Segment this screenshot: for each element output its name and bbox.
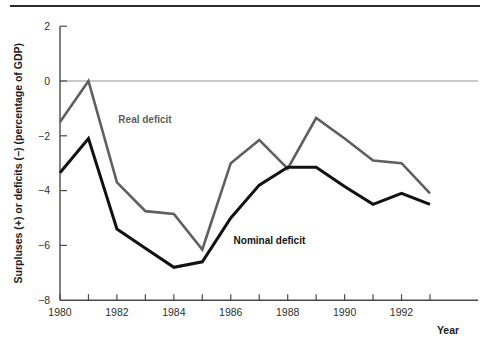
x-tick-label: 1992 xyxy=(390,306,414,318)
x-tick-label: 1986 xyxy=(219,306,243,318)
x-tick-label: 1988 xyxy=(276,306,300,318)
x-tick-label: 1980 xyxy=(48,306,72,318)
x-tick-group: 1980198219841986198819901992 xyxy=(48,294,430,318)
series-annotation-group: Real deficitNominal deficit xyxy=(118,114,306,246)
y-axis-label-group: Surpluses (+) or deficits (−) (percentag… xyxy=(12,43,24,283)
x-tick-label: 1982 xyxy=(105,306,129,318)
deficit-line-chart: 20−2−4−6−8 1980198219841986198819901992 … xyxy=(0,0,486,352)
y-tick-label: −2 xyxy=(38,130,50,142)
x-axis-label: Year xyxy=(437,324,459,336)
y-tick-label: −8 xyxy=(38,294,50,306)
y-tick-group: 20−2−4−6−8 xyxy=(38,20,67,306)
series-annotation-nominal-deficit: Nominal deficit xyxy=(234,235,306,246)
y-axis-label: Surpluses (+) or deficits (−) (percentag… xyxy=(12,43,24,283)
y-tick-label: −4 xyxy=(38,184,50,196)
x-tick-label: 1984 xyxy=(162,306,186,318)
y-tick-label: −6 xyxy=(38,239,50,251)
chart-page: 20−2−4−6−8 1980198219841986198819901992 … xyxy=(0,0,486,352)
x-tick-label: 1990 xyxy=(333,306,357,318)
series-line-nominal-deficit xyxy=(60,139,430,268)
y-tick-label: 2 xyxy=(44,20,50,32)
x-axis-label-group: Year xyxy=(437,324,459,336)
axes-group xyxy=(60,26,478,300)
y-tick-label: 0 xyxy=(44,75,50,87)
series-annotation-real-deficit: Real deficit xyxy=(118,114,172,125)
